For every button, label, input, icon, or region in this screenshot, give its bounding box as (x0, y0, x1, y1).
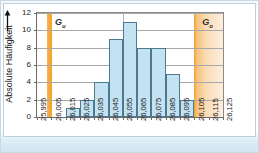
y-axis-label: Absolute Häufigkeit (2, 12, 16, 116)
x-tick-label: 26,115 (212, 98, 220, 121)
y-tick-label: 2 (27, 96, 31, 104)
x-tick-mark (66, 117, 67, 120)
y-tick-label: 6 (27, 61, 31, 69)
x-tick-label: 26,015 (69, 98, 77, 121)
x-tick-label: 26,095 (183, 98, 191, 121)
band-label-lower-text: G (55, 17, 62, 27)
x-tick-label: 26,075 (155, 98, 163, 121)
x-tick-mark (166, 117, 167, 120)
x-tick-mark (51, 117, 52, 120)
band-label-upper-sub: o (209, 23, 213, 29)
x-tick-label: 26,125 (226, 98, 234, 121)
y-tick-mark (34, 48, 37, 49)
x-tick-label: 26,105 (198, 98, 206, 121)
x-tick-mark (123, 117, 124, 120)
plot-area: 02468101225,99526,00526,01526,02526,0352… (36, 12, 224, 118)
y-tick-mark (34, 100, 37, 101)
x-tick-label: 26,055 (126, 98, 134, 121)
x-tick-mark (109, 117, 110, 120)
x-tick-mark (180, 117, 181, 120)
y-tick-label: 12 (22, 9, 31, 17)
x-tick-label: 26,035 (97, 98, 105, 121)
x-tick-mark (80, 117, 81, 120)
y-tick-mark (34, 13, 37, 14)
x-tick-label: 26,005 (55, 98, 63, 121)
x-tick-label: 26,045 (112, 98, 120, 121)
y-axis-label-text: Absolute Häufigkeit (4, 25, 14, 103)
y-tick-mark (34, 65, 37, 66)
y-tick-label: 10 (22, 26, 31, 34)
x-tick-mark (137, 117, 138, 120)
x-tick-mark (223, 117, 224, 120)
band-label-lower-sub: u (62, 23, 66, 29)
x-tick-label: 26,085 (169, 98, 177, 121)
x-tick-mark (209, 117, 210, 120)
x-tick-label: 25,995 (40, 98, 48, 121)
x-tick-mark (37, 117, 38, 120)
y-tick-label: 4 (27, 78, 31, 86)
x-tick-label: 26,025 (83, 98, 91, 121)
band-label-upper: Go (202, 17, 213, 29)
histogram-figure: Absolute Häufigkeit 02468101225,99526,00… (0, 0, 259, 153)
gridline-horizontal (37, 13, 223, 14)
x-tick-label: 26,065 (140, 98, 148, 121)
band-label-lower: Gu (55, 17, 66, 29)
x-tick-mark (151, 117, 152, 120)
y-tick-label: 0 (27, 113, 31, 121)
y-tick-label: 8 (27, 44, 31, 52)
y-tick-mark (34, 82, 37, 83)
x-tick-mark (194, 117, 195, 120)
y-tick-mark (34, 30, 37, 31)
